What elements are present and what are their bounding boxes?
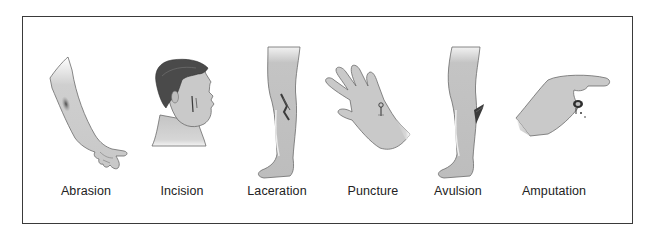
label-puncture: Puncture — [348, 184, 399, 198]
incision-head — [152, 59, 214, 146]
label-incision: Incision — [160, 184, 203, 198]
avulsion-leg — [438, 47, 484, 178]
label-avulsion: Avulsion — [434, 184, 482, 198]
abrasion-arm — [50, 57, 127, 169]
abrasion-illustration — [0, 0, 655, 237]
amputation-hand — [516, 75, 610, 136]
label-laceration: Laceration — [247, 184, 306, 198]
laceration-leg — [258, 47, 300, 178]
label-abrasion: Abrasion — [61, 184, 111, 198]
label-amputation: Amputation — [522, 184, 586, 198]
puncture-hand — [326, 65, 410, 149]
